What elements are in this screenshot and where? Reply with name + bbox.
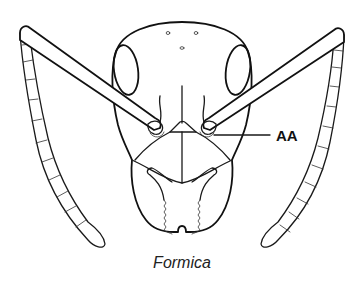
diagram-canvas: AA Formica: [0, 0, 356, 289]
ant-head-diagram: AA Formica: [0, 0, 356, 289]
label-aa-text: AA: [276, 127, 298, 144]
caption: Formica: [153, 254, 211, 271]
